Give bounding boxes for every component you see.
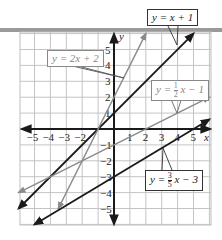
- y-tick-label: 4: [105, 59, 111, 71]
- label-eq: =: [158, 173, 165, 185]
- label-eq: =: [60, 52, 67, 64]
- label-y-equals-x-plus-1: y = x + 1: [147, 9, 198, 26]
- fraction-half: 12: [174, 82, 178, 99]
- y-tick-label: −5: [100, 203, 112, 215]
- y-tick-label: 5: [105, 44, 111, 56]
- label-y-equals-2x-plus-2: y = 2x + 2: [47, 50, 104, 67]
- y-tick-label: 3: [105, 75, 111, 87]
- label-var: y: [156, 83, 161, 95]
- fraction-denominator: 5: [168, 181, 172, 189]
- label-eq: =: [164, 83, 171, 95]
- label-var: y: [152, 11, 157, 23]
- label-eq: =: [160, 11, 167, 23]
- label-expr: x − 1: [181, 83, 204, 95]
- coordinate-plane: xy−5−4−3−21234554321−1−2−3−4−5: [0, 0, 222, 240]
- y-tick-label: −4: [100, 187, 112, 199]
- label-expr: x − 3: [175, 173, 198, 185]
- x-axis-label: x: [203, 131, 209, 143]
- label-y-equals-half-x-minus-1: y = 12 x − 1: [151, 80, 209, 101]
- y-tick-label: −2: [100, 155, 112, 167]
- label-var: y: [52, 52, 57, 64]
- label-expr: x + 1: [170, 11, 193, 23]
- x-tick-label: −4: [42, 131, 54, 143]
- y-tick-label: 2: [105, 91, 111, 103]
- y-axis-label: y: [118, 30, 124, 42]
- x-tick-label: 2: [143, 131, 149, 143]
- fraction-three-fifths: 35: [168, 172, 172, 189]
- x-tick-label: −2: [74, 131, 86, 143]
- x-tick-label: −3: [58, 131, 70, 143]
- label-var: y: [150, 173, 155, 185]
- x-tick-label: 3: [159, 131, 165, 143]
- label-y-equals-three-fifths-x-minus-3: y = 35 x − 3: [145, 170, 203, 191]
- x-tick-label: −5: [27, 131, 39, 143]
- label-expr: 2x + 2: [70, 52, 99, 64]
- fraction-denominator: 2: [174, 91, 178, 99]
- x-tick-label: 5: [191, 131, 197, 143]
